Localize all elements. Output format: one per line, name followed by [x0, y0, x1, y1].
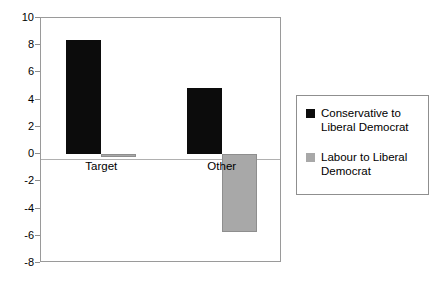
y-tick-label: 6 [0, 65, 34, 77]
legend-item-conservative-to-liberal-democrat: Conservative to Liberal Democrat [306, 106, 429, 134]
y-tick-label: 0 [0, 147, 34, 159]
y-tick-mark [35, 153, 40, 154]
y-tick-mark [35, 262, 40, 263]
y-tick-label: 8 [0, 38, 34, 50]
y-tick-mark [35, 44, 40, 45]
y-tick-label: 4 [0, 93, 34, 105]
bar-target-series-2 [101, 154, 136, 157]
category-label-target: Target [85, 160, 117, 172]
category-label-other: Other [207, 160, 236, 172]
y-axis: 1086420-2-4-6-8 [0, 17, 34, 262]
plot-area: TargetOther [40, 17, 281, 262]
y-tick-mark [35, 235, 40, 236]
bar-chart-figure: 1086420-2-4-6-8 TargetOther Conservative… [0, 0, 436, 292]
legend-item-label: Conservative to Liberal Democrat [321, 106, 429, 134]
y-tick-mark [35, 208, 40, 209]
y-tick-label: 10 [0, 11, 34, 23]
y-tick-mark [35, 17, 40, 18]
y-tick-mark [35, 126, 40, 127]
y-tick-label: -6 [0, 229, 34, 241]
legend-item-label: Labour to Liberal Democrat [321, 150, 429, 178]
chart-legend: Conservative to Liberal Democrat Labour … [296, 95, 429, 195]
y-tick-label: -2 [0, 174, 34, 186]
y-tick-label: -4 [0, 202, 34, 214]
y-tick-label: -8 [0, 256, 34, 268]
legend-item-labour-to-liberal-democrat: Labour to Liberal Democrat [306, 150, 429, 178]
grey-square-icon [306, 153, 315, 162]
bar-target-series-1 [66, 40, 101, 154]
y-tick-mark [35, 71, 40, 72]
y-tick-label: 2 [0, 120, 34, 132]
black-square-icon [306, 109, 315, 118]
bar-other-series-1 [187, 88, 222, 154]
y-tick-mark [35, 99, 40, 100]
y-tick-mark [35, 180, 40, 181]
